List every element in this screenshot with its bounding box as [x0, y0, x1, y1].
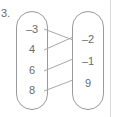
mapping-diagram-figure: 3. –3 4 6 8 –2 –1 9 — [0, 0, 114, 117]
mapping-line-3 — [44, 59, 73, 71]
mapping-line-4 — [44, 80, 73, 91]
mapping-line-2 — [44, 37, 73, 50]
domain-element-2: 4 — [22, 44, 42, 55]
range-element-1: –2 — [78, 34, 98, 45]
domain-element-4: 8 — [22, 85, 42, 96]
range-element-3: 9 — [78, 78, 98, 89]
domain-element-3: 6 — [22, 65, 42, 76]
domain-element-1: –3 — [22, 24, 42, 35]
range-element-2: –1 — [78, 56, 98, 67]
mapping-line-1 — [44, 29, 73, 40]
